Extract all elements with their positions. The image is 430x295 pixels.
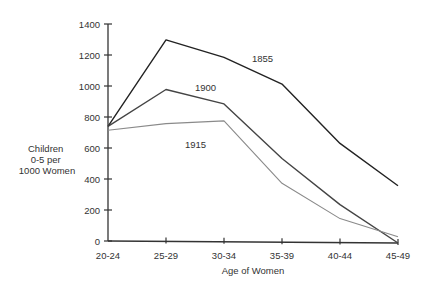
series-label-1900: 1900 (195, 82, 216, 93)
y-tick-label: 0 (95, 236, 100, 247)
y-tick-label: 1400 (79, 19, 100, 30)
series-labels: 185519001915 (185, 53, 273, 150)
x-tick-label: 40-44 (328, 250, 352, 261)
series-label-1855: 1855 (252, 53, 273, 64)
series-line-1900 (108, 90, 398, 244)
x-tick-label: 30-34 (212, 250, 236, 261)
x-axis-line (108, 241, 398, 243)
y-tick-label: 1200 (79, 50, 100, 61)
x-axis-title: Age of Women (222, 265, 285, 276)
y-axis-title-line-2: 0-5 per (31, 154, 61, 165)
x-tick-label: 25-29 (154, 250, 178, 261)
series-lines (108, 40, 398, 243)
y-tick-label: 400 (84, 174, 100, 185)
fertility-line-chart: 0200400600800100012001400 20-2425-2930-3… (0, 0, 430, 295)
x-tick-label: 20-24 (96, 250, 120, 261)
y-tick-label: 600 (84, 143, 100, 154)
x-tick-label: 45-49 (386, 250, 410, 261)
series-label-1915: 1915 (185, 139, 206, 150)
x-tick-label: 35-39 (270, 250, 294, 261)
y-axis: 0200400600800100012001400 (79, 19, 112, 247)
y-tick-label: 800 (84, 112, 100, 123)
y-axis-title-line-3: 1000 Women (19, 165, 75, 176)
y-axis-title-line-1: Children (28, 143, 63, 154)
y-tick-label: 1000 (79, 81, 100, 92)
y-tick-label: 200 (84, 205, 100, 216)
series-line-1915 (108, 121, 398, 237)
y-axis-title: Children 0-5 per 1000 Women (19, 143, 75, 176)
x-axis: 20-2425-2930-3435-3940-4445-49 (96, 237, 410, 261)
